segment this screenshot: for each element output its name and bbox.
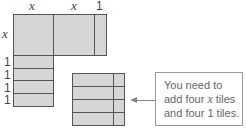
x-tile-add-4 (72, 112, 114, 126)
callout-line-2: add four x tiles (164, 92, 242, 106)
one-tile-add-2 (113, 86, 125, 100)
label-top-x1: x (29, 0, 35, 12)
callout-line-3: and four 1 tiles. (164, 106, 242, 120)
callout-box: You need to add four x tiles and four 1 … (155, 72, 243, 126)
label-side-1b: 1 (4, 69, 11, 81)
one-tile-add-1 (113, 73, 125, 87)
one-tile-top (94, 14, 107, 56)
label-top-1: 1 (96, 0, 103, 12)
x-tile-left-3 (13, 80, 54, 94)
callout-line-1: You need to (164, 78, 242, 92)
arrow-left-icon (130, 97, 137, 103)
label-side-1a: 1 (4, 56, 11, 68)
one-tile-add-3 (113, 99, 125, 113)
arrow-line (137, 100, 155, 101)
x-tile-add-2 (72, 86, 114, 100)
label-side-x: x (2, 28, 8, 40)
x-tile-add-1 (72, 73, 114, 87)
x-tile-top (53, 14, 95, 56)
callout-line-2-pre: add four (164, 93, 207, 105)
x-squared-tile (13, 14, 54, 56)
callout-line-2-post: tiles (213, 93, 236, 105)
x-tile-add-3 (72, 99, 114, 113)
x-tile-left-4 (13, 93, 54, 107)
label-top-x2: x (71, 0, 77, 12)
one-tile-add-4 (113, 112, 125, 126)
label-side-1d: 1 (4, 94, 11, 106)
x-tile-left-1 (13, 55, 54, 69)
